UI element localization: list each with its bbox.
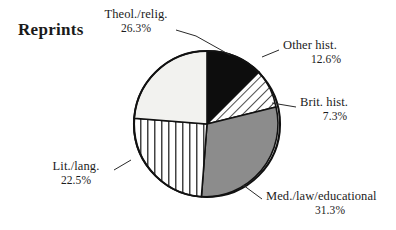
pie-chart-figure: Reprints Theo — [0, 0, 396, 230]
pie-label-med-law-educational: Med./law/educational 31.3% — [266, 190, 394, 216]
pie-label-other-hist-name: Other hist. — [283, 39, 369, 53]
leader-line-other-hist — [262, 50, 279, 57]
pie-label-lit-lang: Lit./lang. 22.5% — [35, 160, 117, 186]
pie-label-lit-lang-value: 22.5% — [35, 174, 117, 186]
pie-label-brit-hist: Brit. hist. 7.3% — [300, 96, 370, 122]
pie-label-theol-relig-value: 26.3% — [88, 22, 184, 34]
pie-label-med-law-educational-name: Med./law/educational — [266, 190, 394, 204]
pie-label-other-hist-value: 12.6% — [283, 53, 369, 65]
pie-label-med-law-educational-value: 31.3% — [266, 204, 394, 216]
pie-slice-lit-lang[interactable] — [134, 118, 207, 197]
pie-label-brit-hist-value: 7.3% — [300, 110, 370, 122]
pie-label-theol-relig-name: Theol./relig. — [88, 8, 184, 22]
pie-label-theol-relig: Theol./relig. 26.3% — [88, 8, 184, 34]
leader-line-med-law-educational — [243, 185, 262, 199]
pie-label-other-hist: Other hist. 12.6% — [283, 39, 369, 65]
pie-label-lit-lang-name: Lit./lang. — [35, 160, 117, 174]
pie-label-brit-hist-name: Brit. hist. — [300, 96, 370, 110]
